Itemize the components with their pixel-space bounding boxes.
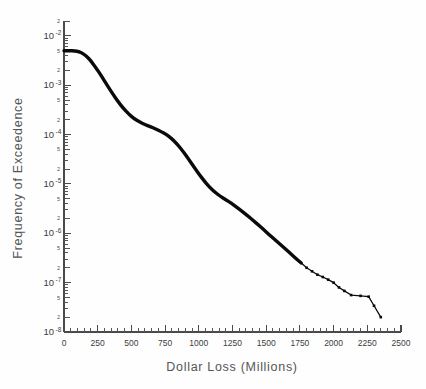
y-tick-minor-label: 2	[57, 215, 60, 221]
y-tick-minor-label: 2	[57, 166, 60, 172]
y-tick-label: 10	[43, 79, 54, 90]
y-tick-minor-label: 2	[57, 18, 60, 24]
y-tick-label: 10	[43, 227, 54, 238]
y-tick-minor-label: 2	[57, 314, 60, 320]
y-tick-label-exponent: -4	[56, 128, 62, 135]
data-point-marker	[322, 276, 325, 279]
y-tick-label-exponent: -3	[56, 79, 62, 86]
y-tick-label: 10	[43, 129, 54, 140]
axes-group	[64, 21, 401, 332]
data-point-marker	[316, 273, 319, 276]
x-tick-label: 1250	[223, 338, 242, 348]
chart-figure: 10-210-310-410-510-610-710-8252525252525…	[0, 0, 426, 389]
y-tick-minor-label: 2	[57, 67, 60, 73]
x-axis-tick-labels: 02505007501000125015001750200022502500	[62, 338, 411, 348]
x-tick-label: 500	[124, 338, 138, 348]
data-point-marker	[305, 266, 308, 269]
y-axis-tick-labels: 10-210-310-410-510-610-710-8252525252525…	[43, 18, 61, 337]
y-tick-label: 10	[43, 326, 54, 337]
y-tick-label-exponent: -7	[56, 276, 62, 283]
data-point-marker	[359, 295, 362, 298]
x-tick-label: 0	[62, 338, 67, 348]
y-tick-minor-label: 5	[57, 245, 60, 251]
data-series-group	[64, 51, 382, 319]
x-tick-label: 2250	[358, 338, 377, 348]
y-tick-label-exponent: -2	[56, 29, 62, 36]
y-tick-minor-label: 2	[57, 265, 60, 271]
x-tick-label: 1500	[257, 338, 276, 348]
x-tick-label: 1750	[290, 338, 309, 348]
y-tick-label: 10	[43, 178, 54, 189]
data-curve-main	[64, 51, 301, 263]
y-tick-label-exponent: -5	[56, 177, 62, 184]
x-tick-label: 2000	[324, 338, 343, 348]
data-point-marker	[350, 294, 353, 297]
x-tick-label: 2500	[392, 338, 411, 348]
data-point-marker	[327, 278, 330, 281]
data-point-marker	[367, 295, 370, 298]
x-axis-ticks	[64, 325, 401, 332]
x-axis-title: Dollar Loss (Millions)	[166, 360, 297, 374]
y-tick-label: 10	[43, 30, 54, 41]
data-point-marker	[373, 304, 376, 307]
data-point-marker	[332, 281, 335, 284]
y-tick-minor-label: 5	[57, 295, 60, 301]
y-axis-title: Frequency of Exceedence	[11, 97, 25, 258]
x-tick-label: 1000	[189, 338, 208, 348]
x-tick-label: 750	[158, 338, 172, 348]
y-tick-label: 10	[43, 277, 54, 288]
data-point-marker	[338, 286, 341, 289]
y-tick-minor-label: 2	[57, 117, 60, 123]
data-point-marker	[343, 290, 346, 293]
y-tick-minor-label: 5	[57, 48, 60, 54]
y-tick-minor-label: 5	[57, 196, 60, 202]
y-tick-minor-label: 5	[57, 146, 60, 152]
y-tick-minor-label: 5	[57, 97, 60, 103]
y-tick-label-exponent: -6	[56, 227, 62, 234]
y-axis-ticks	[64, 21, 71, 332]
data-point-marker	[379, 316, 382, 319]
exceedence-plot: 10-210-310-410-510-610-710-8252525252525…	[0, 0, 426, 389]
x-tick-label: 250	[91, 338, 105, 348]
y-tick-label-exponent: -8	[56, 326, 62, 333]
data-point-marker	[311, 270, 314, 273]
